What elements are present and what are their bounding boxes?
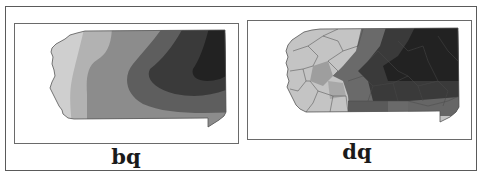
- map-panel-dq: [247, 20, 472, 140]
- map-panel-bq: [14, 23, 239, 144]
- contour-map-bq: [15, 24, 240, 145]
- county-map-dq: [248, 21, 473, 141]
- panel-label-bq: bq: [86, 144, 166, 169]
- panel-label-dq: dq: [317, 139, 397, 164]
